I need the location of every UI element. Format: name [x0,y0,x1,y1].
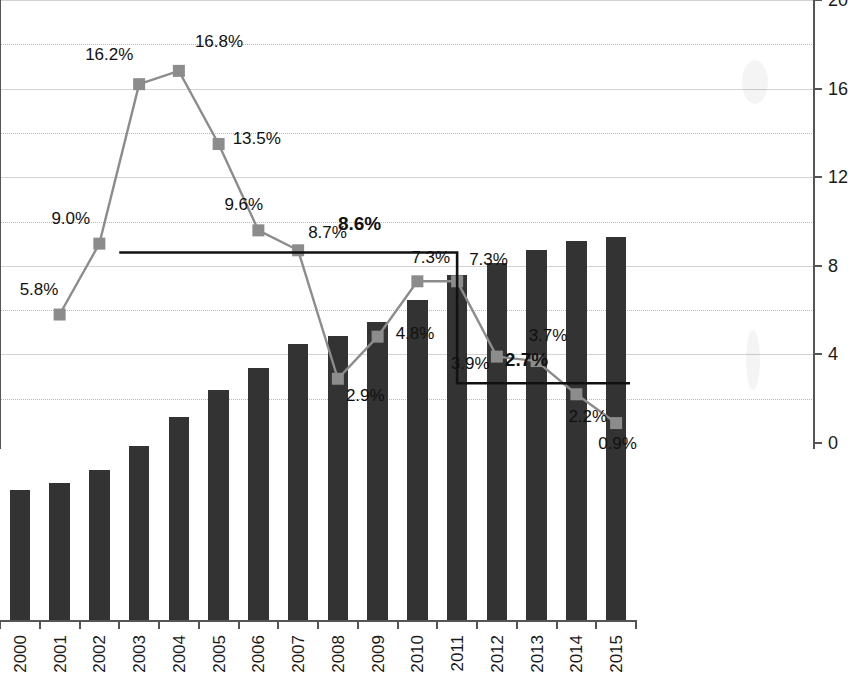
right-axis-tick [814,176,822,178]
right-axis-tick-label: 8 [828,255,838,276]
x-axis-tick [0,621,1,629]
aagr-line [119,253,630,384]
growth-rate-point-label: 7.3% [469,250,508,270]
growth-rate-point-label: 3.9% [451,354,490,374]
line-series-overlay [0,0,636,443]
growth-rate-point-label: 16.8% [195,32,243,52]
x-axis-tick-label: 2007 [289,635,309,673]
x-axis-tick [357,621,359,629]
x-axis-tick-label: 2005 [210,635,230,673]
bar [89,470,110,621]
bar [169,417,190,621]
growth-rate-point-label: 13.5% [233,129,281,149]
x-axis-tick [198,621,200,629]
x-axis-tick-label: 2003 [130,635,150,673]
right-axis-tick [814,353,822,355]
right-axis-tick-label: 16 [828,78,848,99]
right-axis-tick [814,88,822,90]
x-axis-tick [79,621,81,629]
growth-rate-point-label: 16.2% [85,45,133,65]
growth-rate-point-label: 0.9% [598,434,637,454]
x-axis-tick-label: 2010 [408,635,428,673]
aagr-label: 8.6% [338,213,381,235]
bar [129,446,150,621]
x-axis-tick [39,621,41,629]
x-axis-tick-label: 2009 [369,635,389,673]
growth-rate-marker [491,351,503,363]
growth-rate-point-label: 2.2% [568,407,607,427]
aagr-label: 2.7% [505,349,548,371]
growth-rate-marker [252,224,264,236]
x-axis-tick-label: 2008 [329,635,349,673]
left-axis-line [0,0,1,449]
growth-rate-marker [570,388,582,400]
growth-rate-point-label: 5.8% [20,280,59,300]
x-axis-tick [516,621,518,629]
scan-artifact [746,330,760,390]
growth-rate-marker [93,238,105,250]
growth-rate-point-label: 9.0% [51,209,90,229]
growth-rate-point-label: 4.8% [396,324,435,344]
x-axis-tick-label: 2004 [170,635,190,673]
growth-rate-point-label: 2.9% [346,386,385,406]
x-axis-tick [158,621,160,629]
x-axis-tick-label: 2002 [90,635,110,673]
growth-rate-point-label: 3.7% [529,326,568,346]
growth-rate-marker [213,138,225,150]
bar [49,483,70,621]
growth-rate-marker [173,65,185,77]
right-axis-tick [814,0,822,1]
x-axis-tick [635,621,637,629]
x-axis-tick [118,621,120,629]
x-axis-tick-label: 2006 [249,635,269,673]
scan-artifact [742,60,768,104]
x-axis-tick-label: 2014 [567,635,587,673]
x-axis-tick [277,621,279,629]
x-axis-tick [556,621,558,629]
x-axis-tick-label: 2015 [607,635,627,673]
right-axis-tick-label: 4 [828,344,838,365]
growth-rate-marker [54,309,66,321]
x-axis-tick-label: 2001 [51,635,71,673]
x-axis-tick-label: 2000 [11,635,31,673]
x-axis-tick [476,621,478,629]
right-axis-tick [814,265,822,267]
growth-rate-marker [411,275,423,287]
plot-area: 5.8%9.0%16.2%16.8%13.5%9.6%8.7%2.9%4.8%7… [0,0,636,443]
growth-rate-marker [332,373,344,385]
right-axis-tick [814,442,822,444]
right-axis-tick-label: 20 [828,0,848,11]
x-axis-tick-label: 2011 [448,635,468,672]
right-axis-tick-label: 12 [828,167,848,188]
growth-rate-point-label: 7.3% [411,248,450,268]
x-axis-tick [397,621,399,629]
x-axis-tick-label: 2012 [488,635,508,673]
right-axis-tick-label: 0 [828,433,838,454]
x-axis-tick [317,621,319,629]
growth-rate-marker [610,417,622,429]
growth-rate-marker [133,78,145,90]
x-axis-tick [238,621,240,629]
growth-rate-point-label: 9.6% [224,195,263,215]
growth-rate-marker [292,244,304,256]
right-axis-line [813,0,815,449]
x-axis-tick [595,621,597,629]
x-axis-tick [436,621,438,629]
bar [10,490,31,621]
x-axis-tick-label: 2013 [528,635,548,673]
growth-rate-marker [372,331,384,343]
